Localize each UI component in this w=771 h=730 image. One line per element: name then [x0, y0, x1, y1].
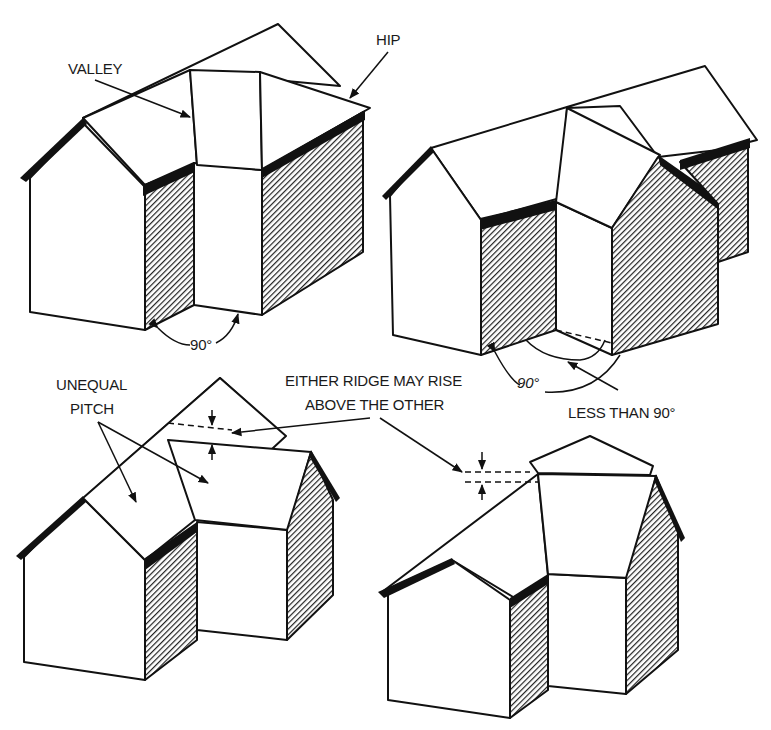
roof-intersection-diagram: 90° VALLEY HIP 90° LESS THAN 90° [0, 0, 771, 730]
panel-top-left: 90° VALLEY HIP [20, 24, 401, 353]
back-ridge-roof [530, 436, 653, 475]
hip-label: HIP [376, 31, 401, 48]
angle-label-90: 90° [517, 374, 539, 391]
less-than-label: LESS THAN 90° [568, 404, 676, 421]
angle-label-90: 90° [190, 336, 212, 353]
panel-bottom-left: UNEQUAL PITCH [16, 376, 370, 680]
valley-label: VALLEY [68, 60, 123, 77]
panel-top-right: 90° LESS THAN 90° [382, 66, 757, 421]
inner-wall [548, 574, 626, 694]
ridge-label-line1: EITHER RIDGE MAY RISE [285, 372, 462, 389]
ridge-label-line2: ABOVE THE OTHER [305, 396, 445, 413]
cross-wing-roof [190, 70, 262, 170]
unequal-pitch-label-line2: PITCH [70, 400, 114, 417]
inner-wall [197, 522, 287, 640]
unequal-pitch-label-line1: UNEQUAL [56, 376, 127, 393]
panel-bottom-right [378, 418, 685, 718]
inner-wall [194, 163, 262, 315]
